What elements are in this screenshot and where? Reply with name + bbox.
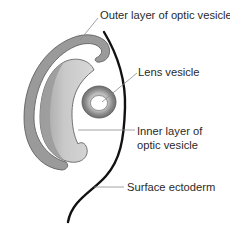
label-surface-ectoderm: Surface ectoderm xyxy=(127,181,215,194)
label-inner-layer-line2: optic vesicle xyxy=(137,139,198,152)
label-outer-layer: Outer layer of optic vesicle xyxy=(100,9,230,22)
optic-vesicle-diagram xyxy=(0,0,230,231)
lens-vesicle-cavity xyxy=(91,96,108,111)
label-inner-layer-line1: Inner layer of xyxy=(137,125,202,138)
leader-lens-vesicle xyxy=(102,73,137,102)
label-lens-vesicle: Lens vesicle xyxy=(138,66,200,79)
